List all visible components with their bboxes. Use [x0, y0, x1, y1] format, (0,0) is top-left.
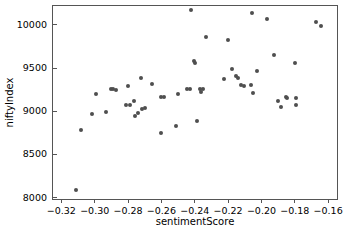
- scatter-points-layer: [53, 6, 337, 199]
- x-axis-tick-mark: [294, 199, 295, 203]
- scatter-point: [276, 99, 280, 103]
- y-axis-tick-mark: [53, 111, 57, 112]
- scatter-point: [319, 24, 323, 28]
- scatter-point: [314, 20, 318, 24]
- y-axis-tick-mark: [53, 68, 57, 69]
- scatter-point: [159, 131, 163, 135]
- x-axis-tick-mark: [61, 199, 62, 203]
- x-axis-tick-mark: [328, 199, 329, 203]
- scatter-point: [162, 95, 166, 99]
- x-axis-tick-mark: [261, 199, 262, 203]
- scatter-point: [265, 17, 269, 21]
- scatter-point: [188, 87, 192, 91]
- scatter-point: [143, 106, 147, 110]
- x-axis-tick-mark: [194, 199, 195, 203]
- x-axis-tick-mark: [94, 199, 95, 203]
- scatter-point: [136, 111, 140, 115]
- scatter-point: [90, 112, 94, 116]
- scatter-point: [251, 91, 255, 95]
- y-axis-label: niftyIndex: [3, 5, 16, 200]
- scatter-point: [94, 92, 98, 96]
- scatter-point: [294, 96, 298, 100]
- y-axis-tick-mark: [53, 24, 57, 25]
- scatter-point: [230, 67, 234, 71]
- scatter-point: [272, 53, 276, 57]
- y-axis-tick-mark: [53, 197, 57, 198]
- scatter-point: [189, 8, 193, 12]
- scatter-point: [126, 84, 130, 88]
- scatter-point: [249, 83, 253, 87]
- scatter-point: [74, 188, 78, 192]
- scatter-point: [236, 76, 240, 80]
- scatter-point: [128, 103, 132, 107]
- scatter-point: [204, 35, 208, 39]
- scatter-point: [124, 103, 128, 107]
- scatter-point: [293, 61, 297, 65]
- scatter-point: [79, 128, 83, 132]
- scatter-point: [195, 119, 199, 123]
- y-axis-tick-label: 8500: [23, 147, 47, 160]
- scatter-point: [250, 11, 254, 15]
- y-axis-tick-mark: [53, 154, 57, 155]
- scatter-point: [139, 76, 143, 80]
- scatter-point: [176, 92, 180, 96]
- plot-axes: 800085009000950010000−0.32−0.30−0.28−0.2…: [52, 5, 338, 200]
- x-axis-tick-mark: [161, 199, 162, 203]
- scatter-point: [222, 77, 226, 81]
- x-axis-tick-mark: [228, 199, 229, 203]
- scatter-point: [114, 88, 118, 92]
- y-axis-label-text: niftyIndex: [4, 78, 15, 128]
- scatter-point: [279, 105, 283, 109]
- scatter-point: [242, 84, 246, 88]
- scatter-point: [285, 96, 289, 100]
- scatter-point: [226, 38, 230, 42]
- scatter-point: [133, 114, 137, 118]
- scatter-point: [174, 124, 178, 128]
- scatter-point: [150, 82, 154, 86]
- y-axis-tick-label: 10000: [17, 18, 47, 31]
- x-axis-label: sentimentScore: [52, 216, 338, 227]
- scatter-point: [294, 103, 298, 107]
- scatter-point: [255, 69, 259, 73]
- y-axis-tick-label: 9500: [23, 61, 47, 74]
- scatter-point: [104, 110, 108, 114]
- y-axis-tick-label: 8000: [23, 191, 47, 204]
- scatter-chart-figure: niftyIndex 800085009000950010000−0.32−0.…: [0, 0, 349, 235]
- x-axis-tick-mark: [128, 199, 129, 203]
- scatter-point: [132, 99, 136, 103]
- y-axis-tick-label: 9000: [23, 104, 47, 117]
- scatter-point: [201, 87, 205, 91]
- scatter-point: [193, 61, 197, 65]
